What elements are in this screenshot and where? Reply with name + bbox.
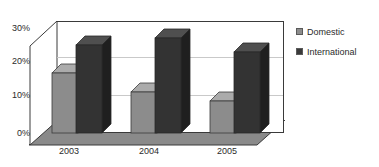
x-tick-2005: 2005	[203, 146, 251, 156]
bar-2005-domestic	[210, 92, 236, 134]
legend-item-international[interactable]: International	[296, 46, 378, 57]
bar-2005-international	[234, 43, 260, 134]
bar-2003-international	[76, 36, 102, 134]
chart-legend: Domestic International	[296, 26, 378, 66]
legend-swatch-domestic-icon	[296, 28, 303, 35]
bar-chart: 30% 20% 10% 0%	[0, 0, 379, 167]
x-tick-2003: 2003	[45, 146, 93, 156]
legend-item-domestic[interactable]: Domestic	[296, 26, 378, 37]
y-tick-30: 30%	[0, 23, 30, 33]
legend-label-international: International	[307, 47, 357, 57]
x-tick-2004: 2004	[125, 146, 173, 156]
bar-2004-international	[155, 29, 181, 134]
legend-label-domestic: Domestic	[307, 27, 345, 37]
y-tick-10: 10%	[0, 90, 30, 100]
legend-swatch-international-icon	[296, 48, 303, 55]
y-tick-20: 20%	[0, 56, 30, 66]
y-tick-0: 0%	[0, 128, 30, 138]
bar-2004-domestic	[131, 83, 157, 134]
bar-2003-domestic	[52, 64, 78, 134]
